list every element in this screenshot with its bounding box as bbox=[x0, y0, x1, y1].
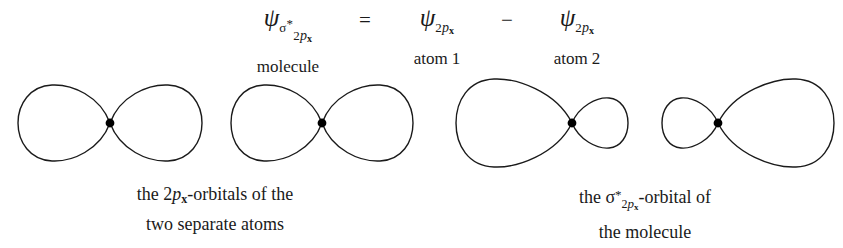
lhs-x-letter: x bbox=[307, 33, 312, 44]
caption-left-pre: the bbox=[137, 184, 164, 204]
term2-principal-number: 2 bbox=[575, 20, 582, 35]
equation-label-atom-2: atom 2 bbox=[522, 48, 632, 70]
orbital-1-right-lobe bbox=[110, 85, 202, 161]
caption-right-line-2: the molecule bbox=[470, 220, 820, 245]
orbital-4-small-left-lobe bbox=[662, 98, 718, 148]
orbital-1-left-lobe bbox=[18, 85, 110, 161]
orbital-sigma-star-left bbox=[456, 79, 628, 167]
wavefunction-equation: ψσ*2px molecule = ψ2px atom 1 − ψ2px ato… bbox=[0, 4, 843, 66]
caption-left-atoms: the 2px-orbitals of the two separate ato… bbox=[30, 182, 400, 237]
orbital-sigma-star-right bbox=[662, 79, 834, 167]
equation-term1-math: ψ2px bbox=[382, 4, 492, 45]
psi-symbol: ψ bbox=[264, 4, 280, 31]
term1-principal-number: 2 bbox=[435, 20, 442, 35]
lhs-deep-subscript: 2px bbox=[293, 28, 312, 43]
equation-term-atom-1: ψ2px atom 1 bbox=[382, 4, 492, 70]
equals-sign: = bbox=[348, 6, 382, 34]
term1-x-letter: x bbox=[449, 25, 454, 36]
equation-lhs-math: ψσ*2px bbox=[228, 4, 348, 53]
orbital-3-small-right-lobe bbox=[572, 98, 628, 148]
orbital-diagram-svg bbox=[0, 74, 843, 174]
lhs-principal-number: 2 bbox=[293, 28, 300, 43]
caption-right-subscript: 2px bbox=[622, 197, 639, 211]
caption-right-post: -orbital of bbox=[639, 187, 711, 207]
orbital-2-left-lobe bbox=[231, 85, 322, 161]
equation-term2-math: ψ2px bbox=[522, 4, 632, 45]
minus-sign: − bbox=[490, 6, 524, 34]
lhs-p-letter: p bbox=[300, 28, 307, 43]
caption-right-line-1: the σ*2px-orbital of bbox=[470, 182, 820, 220]
caption-right-molecule: the σ*2px-orbital of the molecule bbox=[470, 182, 820, 245]
equation-label-atom-1: atom 1 bbox=[382, 48, 492, 70]
term2-subscript: 2px bbox=[575, 20, 594, 35]
caption-right-sigma: σ bbox=[605, 187, 615, 207]
caption-left-post: -orbitals of the bbox=[187, 184, 293, 204]
psi-symbol: ψ bbox=[420, 4, 436, 31]
orbital-2-right-lobe bbox=[322, 85, 413, 161]
caption-left-line-1: the 2px-orbitals of the bbox=[30, 182, 400, 212]
term2-x-letter: x bbox=[589, 25, 594, 36]
psi-symbol: ψ bbox=[560, 4, 576, 31]
orbital-4-large-right-lobe bbox=[718, 79, 834, 167]
orbital-combination-figure: ψσ*2px molecule = ψ2px atom 1 − ψ2px ato… bbox=[0, 0, 843, 248]
equation-term-molecule: ψσ*2px molecule bbox=[228, 4, 348, 78]
lhs-subscript: σ*2px bbox=[279, 20, 312, 35]
term1-subscript: 2px bbox=[435, 20, 454, 35]
caption-right-pre: the bbox=[579, 187, 606, 207]
caption-left-n: 2 bbox=[163, 184, 172, 204]
caption-left-p: p bbox=[172, 184, 181, 204]
orbital-atom-2-2px bbox=[231, 85, 413, 161]
caption-left-line-2: two separate atoms bbox=[30, 212, 400, 237]
nucleus-dot bbox=[106, 119, 115, 128]
orbital-3-large-left-lobe bbox=[456, 79, 572, 167]
nucleus-dot bbox=[714, 119, 723, 128]
orbital-shapes-row bbox=[0, 74, 843, 174]
nucleus-dot bbox=[568, 119, 577, 128]
orbital-atom-1-2px bbox=[18, 85, 202, 161]
nucleus-dot bbox=[318, 119, 327, 128]
equation-term-atom-2: ψ2px atom 2 bbox=[522, 4, 632, 70]
